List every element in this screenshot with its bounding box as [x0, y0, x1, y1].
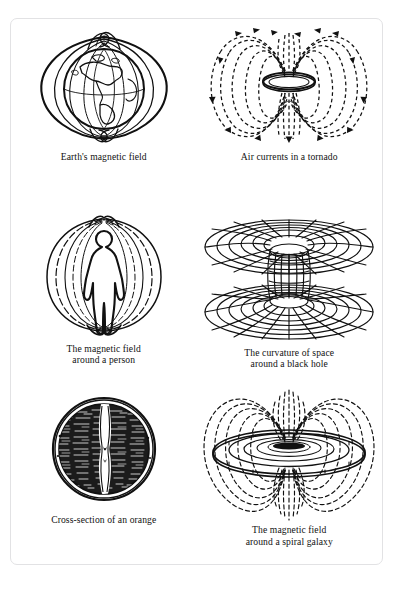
figure-cell-curvature-of-space-around-a-black-hole: The curvature of space around a black ho… [197, 201, 383, 383]
figure-cell-air-currents-in-a-tornado: Air currents in a tornado [197, 19, 383, 201]
wormhole-grid-icon [200, 205, 378, 345]
caption-line-1: The curvature of space [244, 347, 334, 358]
figure-caption: Air currents in a tornado [241, 151, 338, 163]
human-figure-magnetic-field-icon [39, 205, 169, 341]
caption-line-1: Cross-section of an orange [51, 514, 156, 525]
figure-caption: The magnetic field around a spiral galax… [246, 524, 333, 547]
figure-plate-frame: Earth's magnetic field [10, 18, 383, 565]
tornado-air-currents-icon [205, 23, 373, 149]
figure-caption: The magnetic field around a person [67, 343, 141, 366]
caption-line-1: Air currents in a tornado [241, 151, 338, 162]
caption-line-2: around a spiral galaxy [246, 536, 333, 548]
flow-arrowheads [209, 28, 367, 143]
caption-line-1: The magnetic field [252, 524, 326, 535]
caption-line-2: around a person [67, 354, 141, 366]
caption-line-1: Earth's magnetic field [61, 151, 147, 162]
page-ghost-header [0, 0, 393, 12]
figure-cell-cross-section-of-an-orange: Cross-section of an orange [11, 382, 197, 564]
human-silhouette [84, 231, 124, 334]
figure-cell-earths-magnetic-field: Earth's magnetic field [11, 19, 197, 201]
figure-cell-magnetic-field-around-a-person: The magnetic field around a person [11, 201, 197, 383]
caption-line-2: around a black hole [244, 358, 334, 370]
figure-caption: Cross-section of an orange [51, 514, 156, 526]
earth-globe-magnetic-field-icon [28, 23, 180, 149]
spiral-galaxy-magnetic-field-icon [201, 386, 377, 522]
figure-caption: The curvature of space around a black ho… [244, 347, 334, 370]
figure-cell-magnetic-field-around-a-spiral-galaxy: The magnetic field around a spiral galax… [197, 382, 383, 564]
orange-cross-section-icon [40, 386, 168, 512]
galaxy-core [273, 443, 305, 450]
caption-line-1: The magnetic field [67, 343, 141, 354]
figure-caption: Earth's magnetic field [61, 151, 147, 163]
figure-grid: Earth's magnetic field [11, 19, 382, 564]
